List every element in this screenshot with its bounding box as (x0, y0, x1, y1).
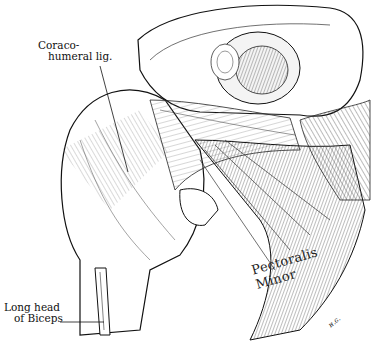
label-coracohumeral-ligament: Coraco- humeral lig. (38, 40, 112, 62)
label-long-head-biceps: Long head of Biceps (4, 302, 63, 324)
anatomy-figure: Coraco- humeral lig. Long head of Biceps… (0, 0, 371, 341)
label-line: of Biceps (4, 313, 63, 324)
label-line: humeral lig. (38, 51, 112, 62)
